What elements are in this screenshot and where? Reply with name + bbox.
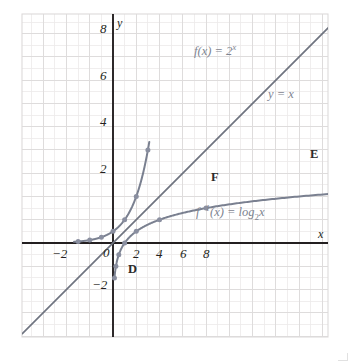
y-tick-label-8: 8 bbox=[100, 22, 107, 35]
y-tick-label-neg2: −2 bbox=[92, 278, 107, 291]
x-tick-label-4: 4 bbox=[156, 247, 163, 260]
y-tick-label-4: 4 bbox=[100, 115, 107, 128]
data-point bbox=[99, 235, 104, 240]
data-point bbox=[145, 147, 150, 152]
point-label-d: D bbox=[128, 263, 137, 276]
data-point bbox=[87, 238, 92, 243]
origin-label: 0 bbox=[103, 246, 110, 259]
annotation-exponential-text: f(x) = 2 bbox=[194, 44, 232, 58]
annotation-log-suffix: x bbox=[259, 205, 265, 219]
graph-figure: y x 0 −2 2 4 6 8 8 6 4 2 −2 D F E f(x) =… bbox=[0, 0, 350, 362]
data-point bbox=[113, 264, 118, 269]
data-point bbox=[111, 229, 116, 234]
data-point bbox=[76, 239, 81, 244]
data-point bbox=[122, 217, 127, 222]
data-point bbox=[157, 217, 162, 222]
point-label-e: E bbox=[310, 148, 318, 161]
data-point bbox=[116, 252, 121, 257]
data-point bbox=[112, 275, 117, 280]
point-label-f: F bbox=[211, 171, 219, 184]
y-tick-label-6: 6 bbox=[100, 69, 107, 82]
page-corner-mark bbox=[338, 353, 348, 361]
annotation-exponential: f(x) = 2x bbox=[194, 43, 236, 58]
data-point bbox=[134, 229, 139, 234]
annotation-logarithmic: f−1(x) = log2x bbox=[196, 204, 265, 222]
x-tick-label-neg2: −2 bbox=[52, 247, 67, 260]
x-tick-label-8: 8 bbox=[203, 247, 210, 260]
annotation-identity: y = x bbox=[268, 88, 294, 101]
data-point bbox=[122, 241, 127, 246]
y-tick-label-2: 2 bbox=[100, 162, 107, 175]
x-axis-label: x bbox=[318, 228, 323, 240]
annotation-exponential-exponent: x bbox=[232, 42, 236, 52]
y-axis-label: y bbox=[117, 17, 122, 29]
data-point bbox=[134, 194, 139, 199]
x-tick-label-2: 2 bbox=[133, 247, 140, 260]
annotation-log-middle: (x) = log bbox=[210, 205, 255, 219]
x-tick-label-6: 6 bbox=[180, 247, 187, 260]
plot-canvas bbox=[0, 0, 350, 362]
annotation-log-superscript: −1 bbox=[199, 203, 210, 213]
